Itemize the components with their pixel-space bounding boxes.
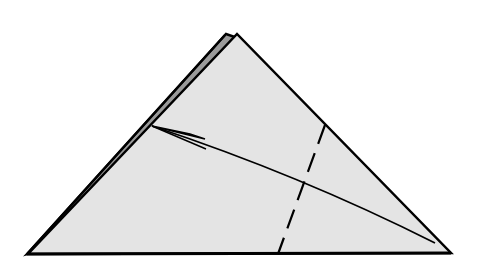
front-triangle	[28, 34, 451, 254]
bottom-edge	[27, 253, 451, 254]
diagram-canvas	[0, 0, 477, 276]
origami-diagram	[0, 0, 477, 276]
